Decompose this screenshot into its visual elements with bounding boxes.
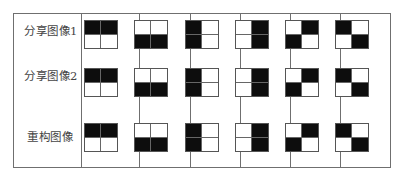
- pattern-block: [84, 68, 118, 97]
- pattern-quadrant: [236, 138, 252, 152]
- pattern-block: [285, 68, 319, 97]
- pattern-quadrant: [286, 124, 302, 138]
- pattern-block: [335, 68, 369, 97]
- pattern-quadrant: [101, 83, 117, 97]
- pattern-quadrant: [252, 138, 268, 152]
- row-label-reconstructed: 重构图像: [27, 128, 73, 144]
- pattern-quadrant: [135, 124, 151, 138]
- pattern-quadrant: [286, 35, 302, 49]
- pattern-quadrant: [302, 35, 318, 49]
- pattern-block: [235, 123, 269, 152]
- pattern-quadrant: [302, 138, 318, 152]
- pattern-quadrant: [352, 21, 368, 35]
- pattern-quadrant: [186, 138, 202, 152]
- pattern-quadrant: [85, 35, 101, 49]
- pattern-block: [285, 123, 319, 152]
- pattern-quadrant: [101, 138, 117, 152]
- pattern-quadrant: [286, 21, 302, 35]
- pattern-quadrant: [336, 83, 352, 97]
- pattern-quadrant: [85, 124, 101, 138]
- pattern-quadrant: [286, 83, 302, 97]
- pattern-quadrant: [135, 69, 151, 83]
- pattern-quadrant: [202, 35, 218, 49]
- pattern-block: [285, 20, 319, 49]
- pattern-block: [134, 68, 168, 97]
- pattern-quadrant: [135, 83, 151, 97]
- pattern-quadrant: [336, 138, 352, 152]
- pattern-block: [235, 68, 269, 97]
- pattern-quadrant: [151, 69, 167, 83]
- pattern-quadrant: [252, 83, 268, 97]
- pattern-block: [335, 20, 369, 49]
- pattern-quadrant: [336, 124, 352, 138]
- pattern-quadrant: [151, 83, 167, 97]
- pattern-quadrant: [101, 69, 117, 83]
- pattern-quadrant: [186, 35, 202, 49]
- pattern-quadrant: [202, 21, 218, 35]
- pattern-block: [84, 123, 118, 152]
- pattern-quadrant: [352, 124, 368, 138]
- pattern-quadrant: [336, 69, 352, 83]
- pattern-block: [134, 123, 168, 152]
- pattern-table: 分享图像1 分享图像2 重构图像: [13, 13, 391, 168]
- pattern-quadrant: [202, 138, 218, 152]
- pattern-block: [185, 68, 219, 97]
- pattern-quadrant: [101, 124, 117, 138]
- pattern-quadrant: [236, 21, 252, 35]
- pattern-quadrant: [252, 21, 268, 35]
- pattern-quadrant: [302, 124, 318, 138]
- pattern-quadrant: [202, 69, 218, 83]
- pattern-quadrant: [101, 35, 117, 49]
- pattern-quadrant: [252, 124, 268, 138]
- pattern-quadrant: [151, 21, 167, 35]
- pattern-quadrant: [151, 35, 167, 49]
- pattern-block: [335, 123, 369, 152]
- pattern-quadrant: [186, 21, 202, 35]
- pattern-quadrant: [352, 83, 368, 97]
- pattern-quadrant: [352, 69, 368, 83]
- pattern-quadrant: [236, 124, 252, 138]
- pattern-quadrant: [302, 21, 318, 35]
- pattern-block: [235, 20, 269, 49]
- pattern-quadrant: [302, 83, 318, 97]
- pattern-quadrant: [286, 69, 302, 83]
- pattern-quadrant: [202, 124, 218, 138]
- pattern-quadrant: [286, 138, 302, 152]
- pattern-quadrant: [236, 35, 252, 49]
- pattern-quadrant: [302, 69, 318, 83]
- pattern-quadrant: [186, 83, 202, 97]
- pattern-quadrant: [85, 21, 101, 35]
- pattern-quadrant: [85, 138, 101, 152]
- pattern-quadrant: [85, 69, 101, 83]
- pattern-quadrant: [151, 124, 167, 138]
- pattern-quadrant: [252, 35, 268, 49]
- pattern-quadrant: [135, 21, 151, 35]
- pattern-block: [185, 123, 219, 152]
- pattern-block: [185, 20, 219, 49]
- pattern-quadrant: [85, 83, 101, 97]
- pattern-block: [134, 20, 168, 49]
- pattern-quadrant: [151, 138, 167, 152]
- pattern-quadrant: [135, 35, 151, 49]
- pattern-quadrant: [202, 83, 218, 97]
- pattern-quadrant: [186, 124, 202, 138]
- pattern-block: [84, 20, 118, 49]
- pattern-quadrant: [336, 21, 352, 35]
- pattern-quadrant: [336, 35, 352, 49]
- row-label-share-2: 分享图像2: [24, 67, 78, 83]
- pattern-quadrant: [135, 138, 151, 152]
- pattern-quadrant: [352, 138, 368, 152]
- pattern-quadrant: [186, 69, 202, 83]
- pattern-quadrant: [101, 21, 117, 35]
- pattern-quadrant: [352, 35, 368, 49]
- column-divider: [81, 14, 82, 167]
- pattern-quadrant: [252, 69, 268, 83]
- row-label-share-1: 分享图像1: [24, 22, 78, 38]
- pattern-quadrant: [236, 69, 252, 83]
- pattern-quadrant: [236, 83, 252, 97]
